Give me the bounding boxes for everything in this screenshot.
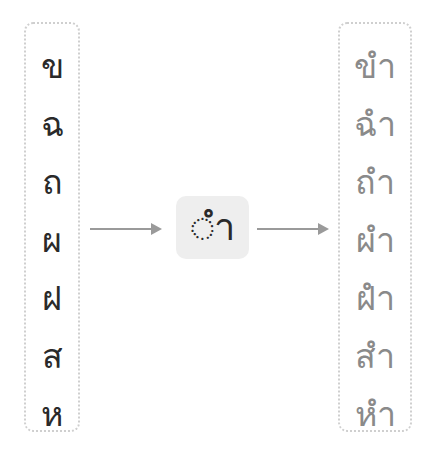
- consonant-pho-phueng: ผ: [26, 220, 78, 260]
- consonant-fo-fa: ฝ: [26, 278, 78, 318]
- arrow-right-icon: [90, 228, 160, 230]
- consonant-ho-hip: ห: [26, 394, 78, 434]
- consonant-tho-thung: ถ: [26, 162, 78, 202]
- arrow-right-icon: [257, 228, 327, 230]
- combined-kham: ขำ: [340, 46, 410, 86]
- combined-tham: ถำ: [340, 162, 410, 202]
- consonant-cho-ching: ฉ: [26, 104, 78, 144]
- combined-fam: ฝำ: [340, 278, 410, 318]
- combined-cham: ฉำ: [340, 104, 410, 144]
- vowel-sara-am: ◌ำ: [176, 204, 249, 250]
- combined-sam: สำ: [340, 336, 410, 376]
- combined-column: ขำ ฉำ ถำ ผำ ฝำ สำ หำ: [338, 22, 412, 432]
- consonant-so-suea: ส: [26, 336, 78, 376]
- consonant-kho-khai: ข: [26, 46, 78, 86]
- combined-pham: ผำ: [340, 220, 410, 260]
- consonant-column: ข ฉ ถ ผ ฝ ส ห: [24, 22, 80, 432]
- vowel-box: ◌ำ: [176, 196, 249, 259]
- combined-ham: หำ: [340, 394, 410, 434]
